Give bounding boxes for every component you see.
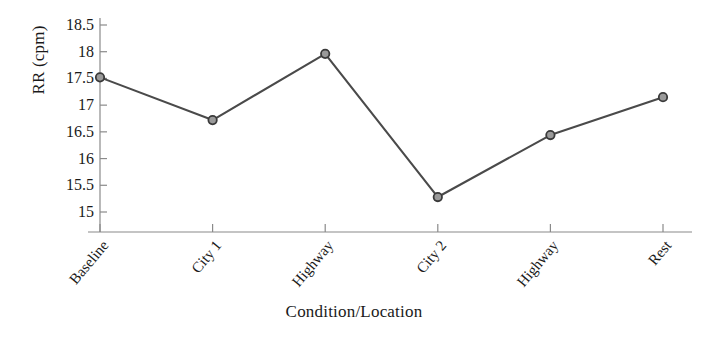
x-axis-title: Condition/Location	[0, 302, 708, 322]
x-axis-tick-labels: BaselineCity 1HighwayCity 2HighwayRest	[0, 0, 708, 338]
chart-figure: RR (cpm) 1515.51616.51717.51818.5 Baseli…	[0, 0, 708, 338]
x-tick-label: Baseline	[0, 238, 111, 338]
